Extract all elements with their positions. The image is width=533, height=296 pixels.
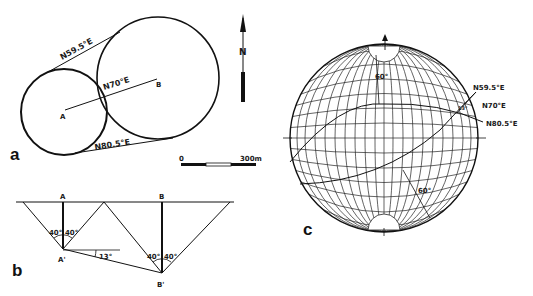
circle-b (97, 17, 219, 139)
bearing-2-label: N70°E (482, 102, 506, 110)
panel-c-stereonet: 60° 60° N59.5°E N70°E N80.5°E 13° c (283, 30, 518, 247)
scale-start-label: 0 (179, 155, 184, 163)
angle-b-right-label: 40° (164, 253, 177, 261)
plunge-angle-label: 13° (99, 253, 112, 261)
point-a-surface-label: A (60, 193, 66, 201)
figure-canvas: N59.5°E N70°E N80.5°E A B a N 0 300m (0, 0, 533, 296)
point-a-label: A (60, 113, 66, 121)
upper-dip-label: 60° (375, 73, 388, 81)
south-pole-cap (368, 214, 400, 230)
panel-b-label: b (12, 261, 22, 280)
lower-tangent-label: N80.5°E (94, 137, 131, 152)
bearing-3-label: N80.5°E (486, 120, 518, 128)
north-pole-cap (368, 46, 400, 62)
bearing-1-label: N59.5°E (473, 84, 505, 92)
panel-a-label: a (10, 145, 20, 164)
lower-dip-label: 60° (418, 187, 431, 195)
angle-b-left-label: 40° (147, 253, 160, 261)
panel-b: A B A' B' 40° 40° 40° 40° 13° b (12, 193, 234, 289)
north-arrow-icon: N (239, 14, 247, 102)
angle-a-left-label: 40° (49, 229, 62, 237)
north-label: N (239, 47, 247, 57)
angle-a-right-label: 40° (65, 229, 78, 237)
point-b-surface-label: B (159, 193, 164, 201)
point-b-label: B (156, 81, 161, 89)
scale-bar: 0 300m (179, 155, 262, 166)
point-b-prime-label: B' (157, 281, 164, 289)
panel-c-label: c (303, 220, 312, 239)
small-angle-label: 13° (458, 105, 468, 111)
scale-end-label: 300m (240, 155, 262, 163)
panel-a: N59.5°E N70°E N80.5°E A B a N 0 300m (10, 14, 262, 166)
upper-tangent-line (48, 32, 120, 72)
point-a-prime-label: A' (58, 256, 66, 264)
